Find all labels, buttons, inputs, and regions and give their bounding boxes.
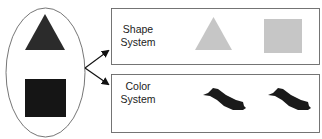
source-group (6, 8, 85, 137)
gray-square-icon (264, 19, 302, 53)
color-system-label-line2: System (118, 93, 158, 106)
color-system-label: Color System (118, 80, 158, 106)
dark-triangle-icon (25, 14, 65, 50)
dark-square-icon (25, 79, 66, 117)
arrow-to-color-system (85, 68, 108, 84)
arrow-to-shape-system (85, 51, 108, 68)
shape-system-label-line1: Shape (118, 23, 158, 36)
color-system-label-line1: Color (118, 80, 158, 93)
diagram-canvas (0, 0, 322, 139)
shape-system-label-line2: System (118, 36, 158, 49)
shape-system-label: Shape System (118, 23, 158, 49)
arrows (85, 51, 108, 84)
